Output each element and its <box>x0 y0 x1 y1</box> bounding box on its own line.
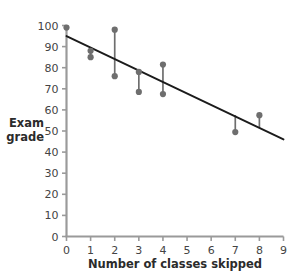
y-axis-tick-label: 20 <box>45 188 59 201</box>
scatterplot-figure: 0102030405060708090100 0123456789 Number… <box>0 0 294 274</box>
data-point <box>160 61 166 67</box>
y-axis-tick-label: 10 <box>45 209 59 222</box>
x-axis-tick-label: 1 <box>87 244 94 257</box>
data-point <box>136 89 142 95</box>
y-axis-tick-label: 30 <box>45 167 59 180</box>
y-axis-tick-label: 90 <box>45 41 59 54</box>
x-axis-tick-label: 9 <box>280 244 287 257</box>
x-axis-tick-label: 6 <box>208 244 215 257</box>
y-axis-tick-label: 50 <box>45 125 59 138</box>
y-axis-tick-label: 0 <box>52 231 59 244</box>
x-axis-tick-label: 0 <box>63 244 70 257</box>
data-point <box>160 91 166 97</box>
x-axis-tick-label: 4 <box>159 244 166 257</box>
x-axis-tick-label: 5 <box>184 244 191 257</box>
x-axis-title: Number of classes skipped <box>88 257 262 271</box>
y-axis-tick-label: 70 <box>45 83 59 96</box>
data-point <box>112 27 118 33</box>
y-axis-tick-label: 40 <box>45 146 59 159</box>
x-axis-tick-label: 7 <box>232 244 239 257</box>
x-axis-tick-label: 8 <box>256 244 263 257</box>
data-point <box>88 54 94 60</box>
y-axis-tick-label: 80 <box>45 62 59 75</box>
data-point <box>63 25 69 31</box>
y-axis-tick-label: 60 <box>45 104 59 117</box>
chart-container: 0102030405060708090100 0123456789 Number… <box>0 0 294 274</box>
data-point <box>112 73 118 79</box>
data-point <box>88 48 94 54</box>
x-axis-tick-label: 2 <box>111 244 118 257</box>
data-point <box>232 129 238 135</box>
data-point <box>256 112 262 118</box>
data-point <box>136 69 142 75</box>
x-axis-tick-label: 3 <box>135 244 142 257</box>
y-axis-title-line1: Exam <box>9 116 44 130</box>
y-axis-title-line2: grade <box>6 130 44 144</box>
y-axis-tick-label: 100 <box>38 20 59 33</box>
